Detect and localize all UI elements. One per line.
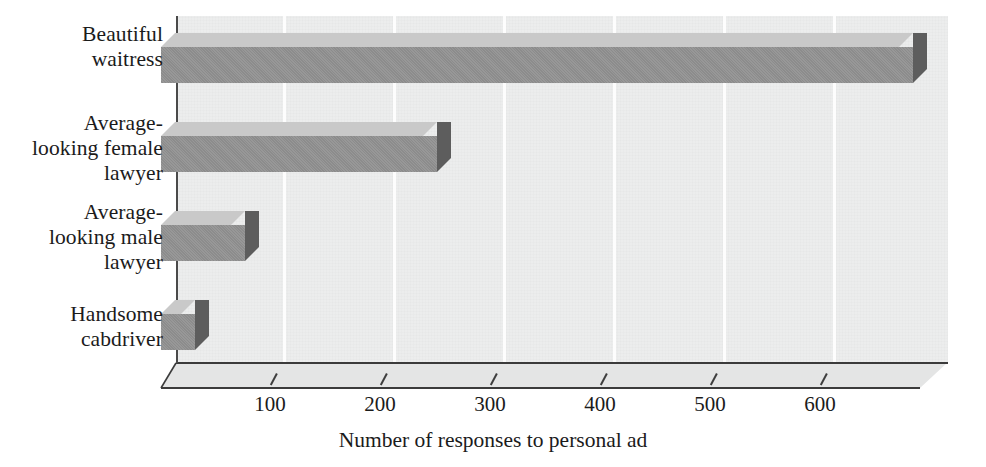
bar-top-face [161, 122, 437, 136]
bar-chart: Beautiful waitress Average- looking fema… [0, 0, 986, 467]
category-label-beautiful-waitress: Beautiful waitress [82, 22, 163, 72]
x-tick-label-500: 500 [670, 392, 750, 416]
bar-top-face [161, 211, 245, 225]
bar-handsome-cabdriver [161, 300, 209, 350]
bar-front-face [161, 225, 245, 261]
bar-front-face [161, 314, 195, 350]
x-axis-title: Number of responses to personal ad [0, 428, 986, 453]
bar-top-face [161, 33, 913, 47]
bar-front-face [161, 136, 437, 172]
bar-top-face [161, 300, 195, 314]
bar-side-face [245, 211, 259, 261]
bar-average-looking-male-lawyer [161, 211, 259, 261]
bar-beautiful-waitress [161, 33, 927, 83]
axis-line-back [176, 362, 948, 364]
bar-front-face [161, 47, 913, 83]
category-label-handsome-cabdriver: Handsome cabdriver [70, 302, 163, 352]
x-tick-label-300: 300 [450, 392, 530, 416]
x-tick-label-100: 100 [230, 392, 310, 416]
x-tick-label-200: 200 [340, 392, 420, 416]
category-label-average-looking-female-lawyer: Average- looking female lawyer [32, 111, 163, 186]
bar-side-face [195, 300, 209, 350]
bar-side-face [437, 122, 451, 172]
floor-left-edge [155, 360, 185, 390]
x-tick-label-600: 600 [780, 392, 860, 416]
x-tick-label-400: 400 [560, 392, 640, 416]
bar-average-looking-female-lawyer [161, 122, 451, 172]
bar-side-face [913, 33, 927, 83]
category-label-average-looking-male-lawyer: Average- looking male lawyer [49, 200, 163, 275]
